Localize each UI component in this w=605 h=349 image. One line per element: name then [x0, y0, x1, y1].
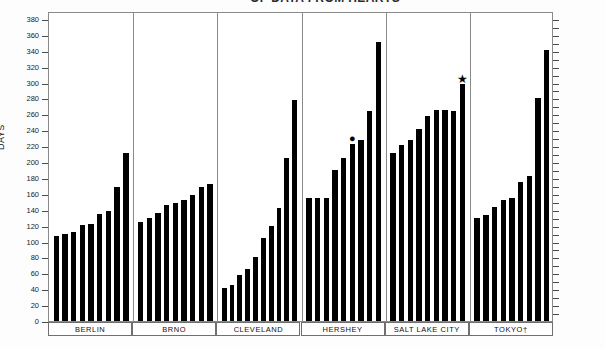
right-tick	[553, 20, 559, 21]
bar	[284, 158, 289, 321]
bar	[155, 213, 160, 321]
right-tick	[553, 203, 559, 204]
bar	[164, 205, 169, 321]
right-tick	[553, 266, 559, 267]
group-separator	[386, 13, 387, 323]
right-tick	[553, 44, 559, 45]
bar	[451, 111, 456, 321]
y-tick-label: 40	[15, 286, 39, 294]
bar	[106, 211, 111, 321]
group-label-cleveland: CLEVELAND	[216, 322, 300, 336]
group-separator	[470, 13, 471, 323]
star-marker: ★	[456, 73, 468, 85]
group-label-brno: BRNO	[132, 322, 216, 336]
right-tick	[553, 84, 559, 85]
right-tick	[553, 76, 559, 77]
right-tick	[553, 163, 559, 164]
bar	[292, 100, 297, 321]
bar	[114, 187, 119, 321]
bar	[442, 110, 447, 321]
group-label-text: BERLIN	[75, 325, 105, 334]
group-label-row: BERLINBRNOCLEVELANDHERSHEYSALT LAKE CITY…	[48, 322, 553, 336]
y-tick-label: 60	[15, 270, 39, 278]
bar	[474, 218, 479, 321]
y-tick-label: 280	[15, 95, 39, 103]
bar	[518, 182, 523, 321]
y-axis-title: DAYS	[0, 124, 6, 150]
bar	[367, 111, 372, 321]
plot-frame: ●★	[48, 12, 553, 322]
dot-marker: ●	[346, 133, 358, 144]
right-tick	[553, 250, 559, 251]
bar	[358, 140, 363, 321]
bar	[88, 224, 93, 321]
y-tick-label: 300	[15, 80, 39, 88]
y-tick-label: 220	[15, 143, 39, 151]
group-separator	[217, 13, 218, 323]
group-label-salt-lake-city: SALT LAKE CITY	[385, 322, 469, 336]
y-tick-label: 180	[15, 175, 39, 183]
right-tick	[553, 171, 559, 172]
y-tick-label: 380	[15, 16, 39, 24]
right-tick	[553, 107, 559, 108]
bar	[527, 176, 532, 321]
bar	[332, 170, 337, 321]
y-tick-label: 100	[15, 239, 39, 247]
bar	[341, 158, 346, 321]
right-tick	[553, 179, 559, 180]
bar	[408, 140, 413, 321]
bar	[399, 145, 404, 321]
y-tick-label: 200	[15, 159, 39, 167]
right-tick	[553, 131, 559, 132]
bar	[460, 84, 465, 321]
bar	[147, 218, 152, 321]
right-tick	[553, 219, 559, 220]
bar	[80, 225, 85, 321]
bar	[230, 285, 235, 321]
y-tick-label: 160	[15, 191, 39, 199]
group-label-text: SALT LAKE CITY	[394, 325, 460, 334]
right-tick	[553, 91, 559, 92]
bar	[138, 222, 143, 321]
group-label-text: HERSHEY	[323, 325, 363, 334]
bar	[199, 187, 204, 321]
bar	[261, 238, 266, 321]
right-tick	[553, 235, 559, 236]
bar	[54, 236, 59, 321]
bar	[425, 116, 430, 321]
y-tick-label: 340	[15, 48, 39, 56]
group-label-tokyo: TOKYO†	[469, 322, 553, 336]
right-tick	[553, 52, 559, 53]
right-tick	[553, 290, 559, 291]
right-tick	[553, 227, 559, 228]
bar	[181, 200, 186, 321]
bar	[71, 232, 76, 321]
bar	[509, 198, 514, 321]
bar	[535, 98, 540, 321]
chart-title-cropped: OF DATA FROM HEARTS	[0, 0, 605, 9]
chart-page: OF DATA FROM HEARTS DAYS 020406080100120…	[0, 0, 605, 349]
bar	[207, 184, 212, 322]
right-tick	[553, 243, 559, 244]
right-tick	[553, 306, 559, 307]
right-tick	[553, 99, 559, 100]
y-tick-label: 360	[15, 32, 39, 40]
right-tick	[553, 195, 559, 196]
bar	[376, 42, 381, 321]
group-label-berlin: BERLIN	[48, 322, 132, 336]
y-tick-label: 260	[15, 111, 39, 119]
bar	[190, 195, 195, 321]
bar	[277, 208, 282, 321]
group-separator	[133, 13, 134, 323]
group-label-text: CLEVELAND	[234, 325, 284, 334]
bar	[173, 203, 178, 321]
group-label-text: BRNO	[162, 325, 186, 334]
bar	[253, 257, 258, 321]
bar	[269, 226, 274, 321]
bar	[306, 198, 311, 321]
bar	[416, 129, 421, 321]
right-tick	[553, 36, 559, 37]
y-tick-label: 80	[15, 254, 39, 262]
right-tick	[553, 187, 559, 188]
right-tick	[553, 139, 559, 140]
